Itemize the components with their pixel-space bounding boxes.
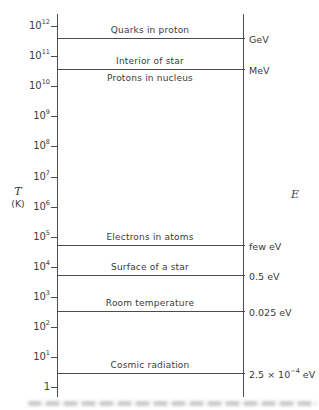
- temperature-tick-label: 107: [0, 170, 50, 181]
- temperature-tick-label: 1011: [0, 50, 50, 61]
- energy-label: MeV: [249, 65, 270, 76]
- temperature-tick-label: 102: [0, 321, 50, 332]
- temperature-tick-label: 1012: [0, 20, 50, 31]
- temperature-tick-label: 101: [0, 351, 50, 362]
- temperature-axis-line: [57, 14, 58, 397]
- temperature-tick-mark: [51, 237, 57, 238]
- energy-label: 0.5 eV: [249, 270, 279, 281]
- temperature-tick-mark: [51, 177, 57, 178]
- temperature-tick-mark: [51, 387, 57, 388]
- annotation-label: Electrons in atoms: [106, 232, 193, 242]
- temperature-symbol: T: [3, 185, 33, 198]
- temperature-tick-label: 103: [0, 291, 50, 302]
- annotation-label: Protons in nucleus: [107, 73, 193, 83]
- temperature-tick-mark: [51, 56, 57, 57]
- energy-label: 2.5 × 10−4 eV: [249, 369, 315, 380]
- temperature-tick-mark: [51, 327, 57, 328]
- temperature-tick-label: 1: [0, 381, 50, 392]
- scale-line: [57, 38, 245, 39]
- temperature-tick-label: 109: [0, 110, 50, 121]
- temperature-tick-mark: [51, 86, 57, 87]
- scale-line: [57, 275, 245, 276]
- temperature-tick-label: 104: [0, 260, 50, 271]
- temperature-energy-scale-diagram: T (K) E 10121011101010910810710610510410…: [0, 0, 319, 410]
- energy-label: GeV: [249, 34, 269, 45]
- temperature-tick-mark: [51, 26, 57, 27]
- scale-line: [57, 69, 245, 70]
- annotation-label: Quarks in proton: [111, 25, 190, 35]
- energy-label: few eV: [249, 240, 281, 251]
- annotation-label: Surface of a star: [111, 262, 189, 272]
- temperature-tick-label: 108: [0, 140, 50, 151]
- temperature-tick-mark: [51, 146, 57, 147]
- scale-line: [57, 373, 245, 374]
- energy-axis-title: E: [291, 188, 299, 201]
- annotation-label: Cosmic radiation: [111, 360, 190, 370]
- annotation-label: Interior of star: [116, 56, 184, 66]
- energy-label: 0.025 eV: [249, 307, 292, 318]
- scale-line: [57, 311, 245, 312]
- temperature-tick-label: 1010: [0, 80, 50, 91]
- temperature-tick-mark: [51, 207, 57, 208]
- temperature-tick-mark: [51, 357, 57, 358]
- energy-axis-line: [243, 14, 244, 397]
- cropped-caption-blur: [28, 401, 317, 406]
- scale-line: [57, 245, 245, 246]
- temperature-tick-label: 106: [0, 200, 50, 211]
- temperature-tick-mark: [51, 116, 57, 117]
- temperature-tick-label: 105: [0, 230, 50, 241]
- temperature-tick-mark: [51, 297, 57, 298]
- temperature-tick-mark: [51, 267, 57, 268]
- annotation-label: Room temperature: [106, 298, 194, 308]
